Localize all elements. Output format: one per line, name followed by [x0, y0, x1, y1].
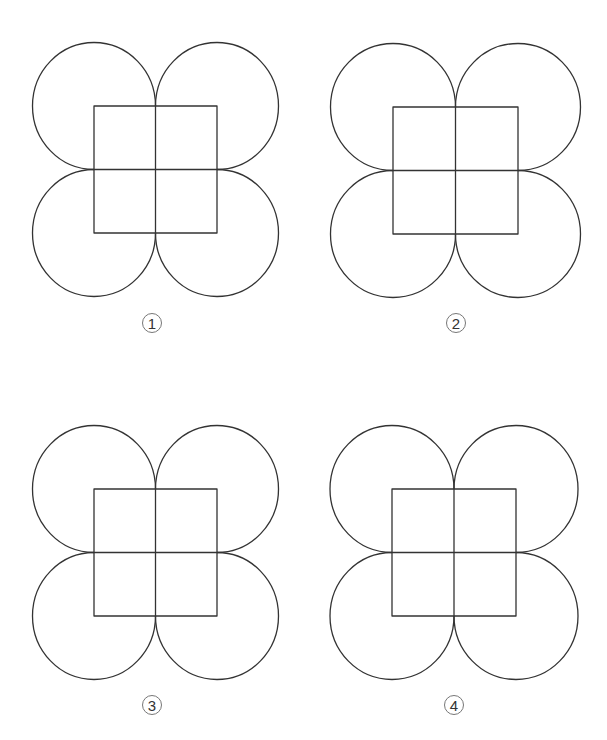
- figure-label-1: 1: [142, 313, 162, 333]
- figure-1: [33, 42, 279, 296]
- figure-2: [331, 43, 581, 297]
- figure-label-4: 4: [444, 695, 464, 715]
- diagram-canvas: [0, 0, 607, 740]
- figure-label-3: 3: [142, 695, 162, 715]
- figure-3: [33, 426, 279, 680]
- figure-label-2: 2: [446, 313, 466, 333]
- figure-4: [330, 426, 578, 680]
